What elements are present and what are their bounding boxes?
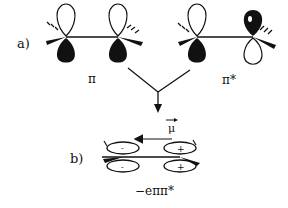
sign-right-bottom: + [177,162,185,172]
n-pi-star-caption: −eππ* [135,184,174,198]
dipole-mu-label: μ [168,122,175,135]
pi-star-orbital [178,4,276,64]
pi-orbital [46,4,143,63]
pi-label: π [88,72,96,86]
combination-arrow [128,68,190,108]
sign-right-top: + [177,144,185,154]
vector-arrow-icon [174,118,178,122]
sign-left-top: - [121,144,124,153]
sign-left-bottom: - [121,163,124,172]
orbital-diagram: a) π [0,0,288,208]
panel-a-label: a) [17,36,30,51]
pi-star-label: π* [222,73,236,87]
down-arrow-icon [154,104,162,113]
n-pi-star-orbital [102,140,200,172]
panel-b-label: b) [70,151,83,166]
